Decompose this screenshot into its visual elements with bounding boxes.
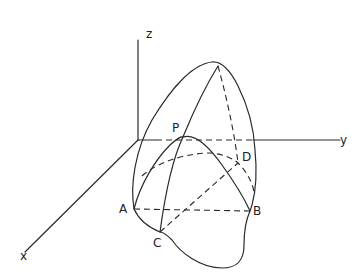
point-label-D: D xyxy=(242,151,251,163)
point-label-P: P xyxy=(172,122,179,134)
axis-label-y: y xyxy=(340,134,347,146)
edge-AB-hidden xyxy=(134,209,250,211)
edge-CD-hidden xyxy=(160,163,238,232)
point-label-A: A xyxy=(119,203,127,215)
meridian-left xyxy=(134,137,183,209)
point-label-C: C xyxy=(153,237,161,249)
diagram-canvas: z y x P A B C D xyxy=(0,0,360,278)
diagram-svg xyxy=(0,0,360,278)
axis-label-x: x xyxy=(20,250,27,262)
axis-label-z: z xyxy=(146,28,152,40)
x-axis xyxy=(25,140,138,252)
edge-PB xyxy=(183,136,250,211)
point-label-B: B xyxy=(253,205,261,217)
axes xyxy=(25,40,340,252)
dome-outline xyxy=(133,62,256,268)
